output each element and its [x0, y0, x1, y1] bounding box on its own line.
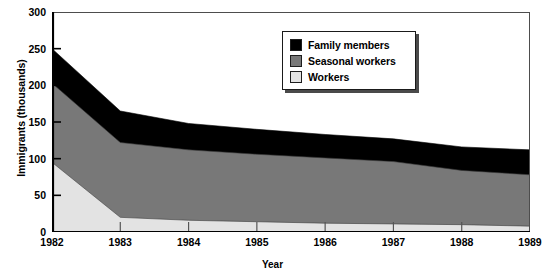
y-axis-tick-label: 250 — [16, 43, 46, 55]
legend-swatch — [290, 71, 302, 83]
y-axis-tick-label: 300 — [16, 6, 46, 18]
y-axis-tick-label: 100 — [16, 153, 46, 165]
legend-label: Family members — [308, 39, 389, 51]
x-axis-tick-label: 1982 — [22, 236, 82, 248]
x-axis-tick-label: 1983 — [90, 236, 150, 248]
x-axis-tick-label: 1989 — [500, 236, 545, 248]
x-axis-tick-label: 1987 — [363, 236, 423, 248]
x-axis-tick-label: 1985 — [227, 236, 287, 248]
y-axis-tick-label: 50 — [16, 189, 46, 201]
legend-label: Seasonal workers — [308, 55, 396, 67]
legend-item: Family members — [290, 37, 409, 52]
stacked-area-chart: Immigrants (thousands) 05010015020025030… — [0, 0, 545, 278]
legend-item: Seasonal workers — [290, 53, 409, 68]
x-axis-tick-label: 1986 — [295, 236, 355, 248]
legend-label: Workers — [308, 71, 349, 83]
x-axis-tick-label: 1988 — [432, 236, 492, 248]
x-axis-tick-label: 1984 — [159, 236, 219, 248]
legend-item: Workers — [290, 69, 409, 84]
x-axis-title: Year — [0, 259, 545, 270]
legend-swatch — [290, 55, 302, 67]
chart-legend: Family membersSeasonal workersWorkers — [282, 31, 416, 90]
y-axis-tick-label: 200 — [16, 79, 46, 91]
y-axis-tick-label: 150 — [16, 116, 46, 128]
legend-swatch — [290, 39, 302, 51]
